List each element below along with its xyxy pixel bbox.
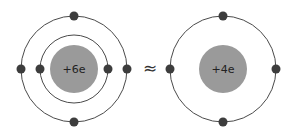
equivalent-core-shell-1-electron: [219, 118, 228, 127]
atom-diagram: +6e+4e ≈: [0, 0, 296, 137]
equivalent-core-shell-1-electron: [272, 65, 281, 74]
equivalent-core-shell-1-electron: [219, 12, 228, 21]
carbon-atom-shell-2-electron: [17, 65, 26, 74]
carbon-atom-nucleus-label: +6e: [63, 63, 86, 76]
carbon-atom-shell-2-electron: [70, 12, 79, 21]
carbon-atom-shell-2-electron: [70, 118, 79, 127]
approximately-equal-symbol: ≈: [143, 60, 157, 77]
carbon-atom-shell-1-electron: [104, 65, 113, 74]
carbon-atom-shell-2-electron: [123, 65, 132, 74]
equivalent-core-nucleus-label: +4e: [212, 63, 235, 76]
carbon-atom-shell-1-electron: [36, 65, 45, 74]
equivalent-core-shell-1-electron: [166, 65, 175, 74]
